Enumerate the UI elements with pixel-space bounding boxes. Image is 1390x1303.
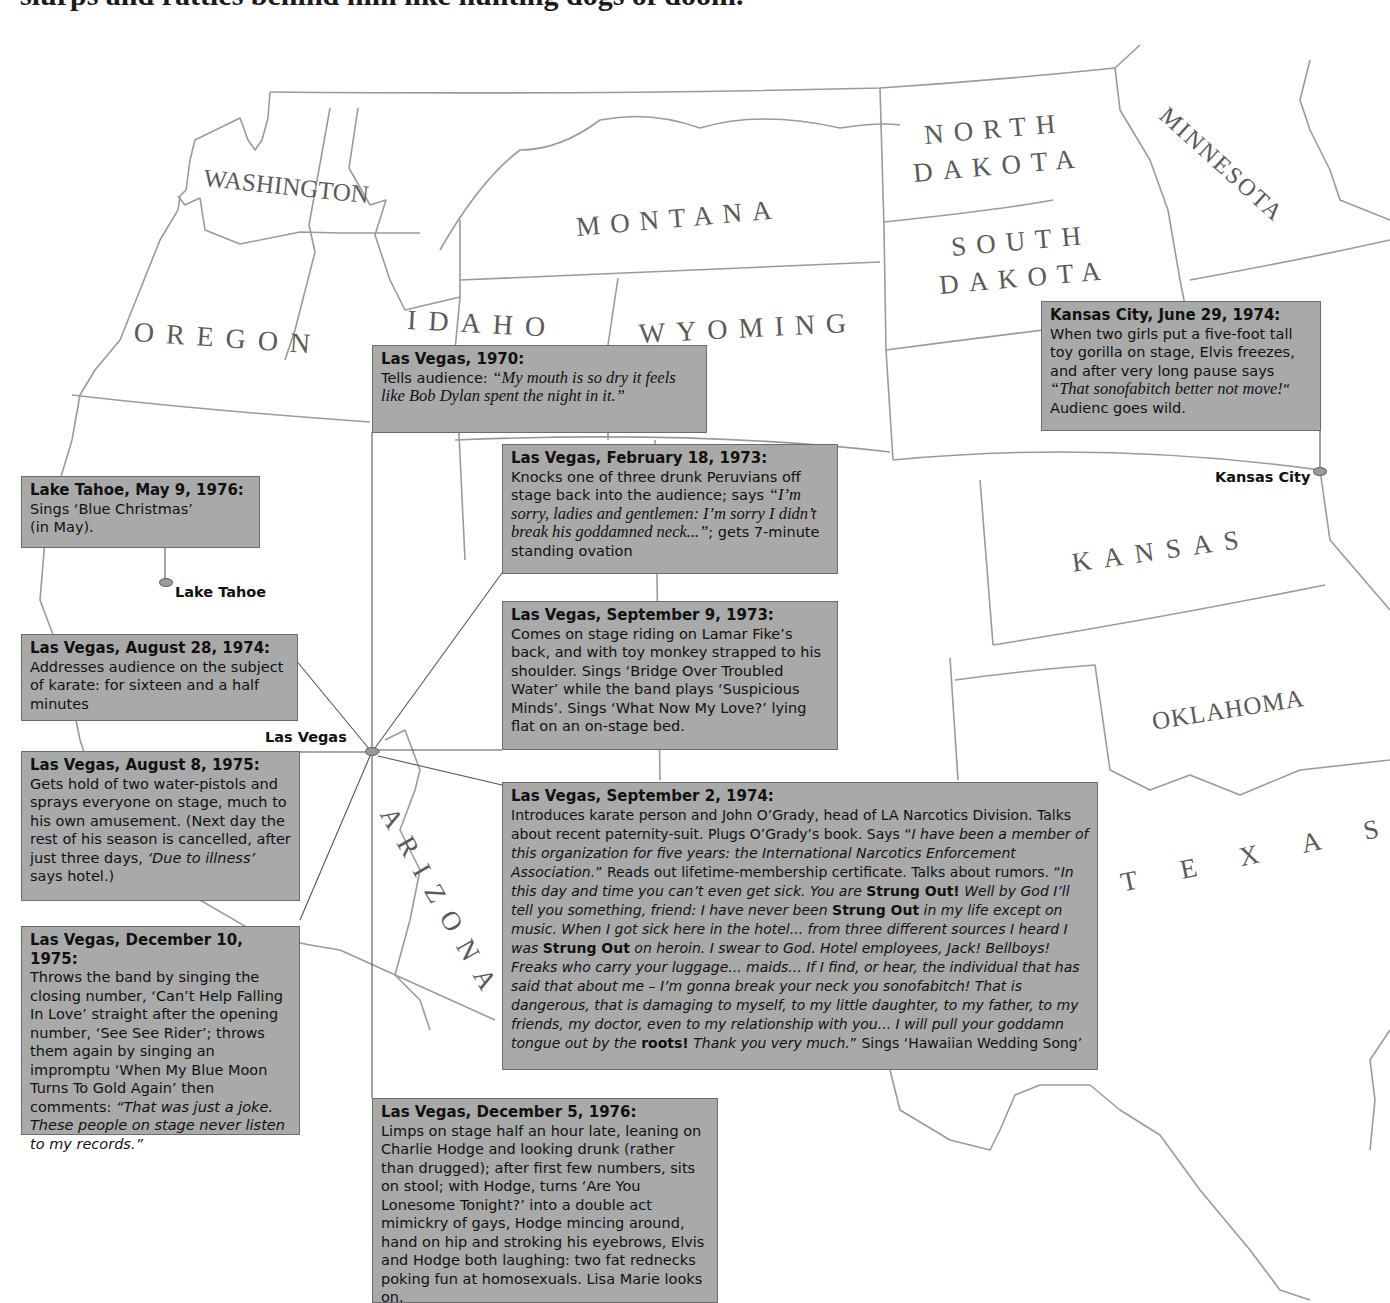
event-box-las-vegas-dec10-1975: Las Vegas, December 10, 1975: Throws the… bbox=[21, 926, 300, 1135]
event-box-las-vegas-1970: Las Vegas, 1970: Tells audience: “My mou… bbox=[372, 345, 707, 433]
event-title: Las Vegas, August 28, 1974: bbox=[30, 639, 289, 658]
event-text: When two girls put a five-foot tall toy … bbox=[1050, 326, 1295, 379]
city-label-las-vegas: Las Vegas bbox=[265, 729, 347, 745]
event-emphasis: Strung Out bbox=[543, 940, 630, 956]
event-text: Addresses audience on the subject of kar… bbox=[30, 659, 283, 712]
event-box-las-vegas-sep2-1974: Las Vegas, September 2, 1974: Introduces… bbox=[502, 782, 1098, 1070]
event-title: Las Vegas, 1970: bbox=[381, 350, 698, 369]
event-text: ” Reads out lifetime-membership certific… bbox=[595, 864, 1061, 880]
event-text: Sings ‘Blue Christmas’ bbox=[30, 500, 251, 519]
event-title: Las Vegas, February 18, 1973: bbox=[511, 449, 829, 468]
event-box-las-vegas-aug8-1975: Las Vegas, August 8, 1975: Gets hold of … bbox=[21, 751, 300, 901]
event-box-lake-tahoe-1976: Lake Tahoe, May 9, 1976: Sings ‘Blue Chr… bbox=[21, 476, 260, 548]
event-title: Las Vegas, December 10, 1975: bbox=[30, 931, 291, 968]
event-text: Knocks one of three drunk Peruvians off … bbox=[511, 469, 801, 504]
event-emphasis: roots! bbox=[641, 1035, 689, 1051]
event-box-las-vegas-sep9-1973: Las Vegas, September 9, 1973: Comes on s… bbox=[502, 601, 838, 750]
event-box-las-vegas-aug28-1974: Las Vegas, August 28, 1974: Addresses au… bbox=[21, 634, 298, 721]
event-text: Tells audience: bbox=[381, 370, 492, 386]
event-text: (in May). bbox=[30, 518, 251, 537]
event-text: ” Sings ‘Hawaiian Wedding Song’ bbox=[850, 1035, 1082, 1051]
event-box-kansas-city-1974: Kansas City, June 29, 1974: When two gir… bbox=[1041, 301, 1321, 431]
event-title: Las Vegas, December 5, 1976: bbox=[381, 1103, 709, 1122]
event-box-las-vegas-dec5-1976: Las Vegas, December 5, 1976: Limps on st… bbox=[372, 1098, 718, 1303]
city-label-lake-tahoe: Lake Tahoe bbox=[175, 584, 266, 600]
event-box-las-vegas-feb-1973: Las Vegas, February 18, 1973: Knocks one… bbox=[502, 444, 838, 574]
event-emphasis: Strung Out bbox=[832, 902, 919, 918]
event-emphasis: Strung Out! bbox=[866, 883, 959, 899]
event-title: Las Vegas, September 2, 1974: bbox=[511, 787, 1089, 806]
event-title: Kansas City, June 29, 1974: bbox=[1050, 306, 1312, 325]
event-text: Throws the band by singing the closing n… bbox=[30, 969, 283, 1115]
event-text: Comes on stage riding on Lamar Fike’s ba… bbox=[511, 626, 821, 735]
event-title: Lake Tahoe, May 9, 1976: bbox=[30, 481, 251, 500]
event-quote: ‘Due to illness’ bbox=[147, 850, 255, 866]
event-quote: “That sonofabitch better not move! bbox=[1050, 379, 1283, 398]
event-text: says hotel.) bbox=[30, 868, 114, 884]
lake-tahoe-marker bbox=[159, 578, 173, 587]
event-title: Las Vegas, September 9, 1973: bbox=[511, 606, 829, 625]
event-text: Limps on stage half an hour late, leanin… bbox=[381, 1123, 704, 1303]
kansas-city-marker bbox=[1313, 467, 1327, 476]
city-label-kansas-city: Kansas City bbox=[1215, 469, 1310, 485]
event-quote: Thank you very much. bbox=[689, 1035, 850, 1051]
event-title: Las Vegas, August 8, 1975: bbox=[30, 756, 291, 775]
las-vegas-marker bbox=[365, 747, 379, 756]
